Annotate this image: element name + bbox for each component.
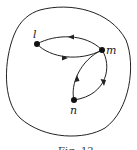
node-label-n: n (70, 104, 77, 117)
edge-m-to-l (37, 37, 102, 50)
graph-diagram: l m n Fig. 12 (0, 0, 137, 150)
arrow-left-icon (68, 35, 74, 40)
edge-l-to-m (37, 44, 102, 57)
figure-caption: Fig. 12 (58, 145, 94, 150)
node-m (99, 47, 105, 53)
node-label-l: l (33, 28, 37, 41)
arrow-up-icon (75, 75, 80, 82)
region-boundary (6, 7, 130, 136)
node-n (71, 97, 77, 103)
node-l (34, 41, 40, 47)
node-label-m: m (106, 44, 116, 57)
